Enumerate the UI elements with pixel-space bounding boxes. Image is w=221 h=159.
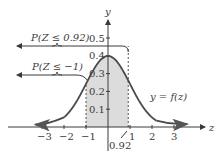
y-tick-label: 0.2 xyxy=(89,86,105,97)
y-axis-label: y xyxy=(104,6,111,17)
x-tick-label: −1 xyxy=(81,131,96,142)
normal-distribution-chart: z y −3−2−1123 0.10.20.30.40.5 y = f(z) P… xyxy=(0,0,221,159)
y-tick-label: 0.4 xyxy=(89,50,105,61)
x-tick-label: −2 xyxy=(59,131,74,142)
curve-right-arrow xyxy=(156,121,187,124)
annotation-arrow-upper xyxy=(17,46,128,52)
curve-left-arrow xyxy=(35,117,64,124)
annotation-arrow-lower xyxy=(17,75,87,80)
x-tick-label: 3 xyxy=(171,131,177,142)
x-ticks: −3−2−1123 xyxy=(37,125,177,142)
annotation-p-z-le-minus-1: P(Z ≤ −1) xyxy=(31,61,83,72)
y-tick-label: 0.5 xyxy=(89,33,105,44)
annotation-p-z-le-0-92: P(Z ≤ 0.92) xyxy=(30,32,90,43)
marked-value-label: 0.92 xyxy=(109,140,131,151)
x-tick-label: −3 xyxy=(37,131,52,142)
x-axis-label: z xyxy=(208,122,215,133)
y-tick-label: 0.1 xyxy=(89,104,105,115)
marked-value-pointer xyxy=(121,131,127,138)
curve-label: y = f(z) xyxy=(149,91,187,102)
x-tick-label: 2 xyxy=(149,131,155,142)
